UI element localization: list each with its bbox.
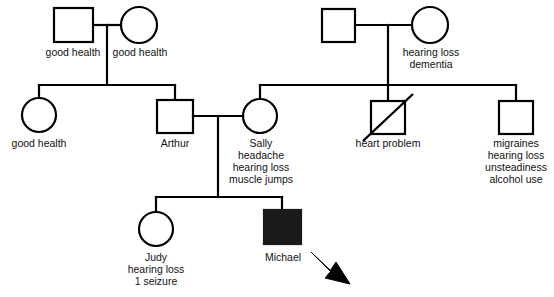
person-g2-migraines-label-line2: hearing loss xyxy=(488,149,545,161)
person-g1b-mother-label-line1: hearing loss xyxy=(403,46,460,58)
person-g2-migraines-label-line1: migraines xyxy=(493,137,539,149)
person-g1a-mother-circle[interactable] xyxy=(121,7,157,43)
person-g3-judy-label-line2: hearing loss xyxy=(128,263,185,275)
person-g1a-father-square[interactable] xyxy=(54,8,93,42)
person-g2-sally-label-line2: headache xyxy=(238,149,284,161)
person-g1b-father-square[interactable] xyxy=(322,9,355,42)
person-g1b-mother-circle[interactable] xyxy=(412,7,448,43)
person-g3-michael-label: Michael xyxy=(265,251,301,263)
person-g2-migraines-square[interactable] xyxy=(499,101,533,134)
person-g2-migraines-label-line4: alcohol use xyxy=(489,173,542,185)
person-g2-arthur-square[interactable] xyxy=(157,100,193,133)
person-g2-migraines-label-line3: unsteadiness xyxy=(485,161,547,173)
proband-arrow-icon xyxy=(311,252,350,284)
person-g2-sally-label-line1: Sally xyxy=(250,137,274,149)
pedigree-canvas: good health good health hearing loss dem… xyxy=(0,0,554,297)
person-g3-judy-label-line1: Judy xyxy=(145,251,168,263)
person-g2-heart-label: heart problem xyxy=(356,137,421,149)
person-g2-daughter-left-circle[interactable] xyxy=(22,98,56,132)
person-g3-michael-square[interactable] xyxy=(264,210,301,244)
person-g1a-mother-label: good health xyxy=(113,46,168,58)
person-g2-sally-label-line3: hearing loss xyxy=(233,161,290,173)
person-g2-sally-circle[interactable] xyxy=(243,99,277,133)
person-g1a-father-label: good health xyxy=(46,46,101,58)
pedigree-chart: good health good health hearing loss dem… xyxy=(0,0,554,297)
person-g1b-mother-label-line2: dementia xyxy=(409,58,452,70)
person-g3-judy-circle[interactable] xyxy=(139,212,173,246)
person-g2-arthur-label: Arthur xyxy=(161,137,190,149)
person-g2-sally-label-line4: muscle jumps xyxy=(229,173,293,185)
person-g3-judy-label-line3: 1 seizure xyxy=(135,275,178,287)
person-g2-daughter-left-label: good health xyxy=(12,137,67,149)
